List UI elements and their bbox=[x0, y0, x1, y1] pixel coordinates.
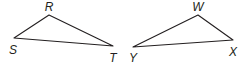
triangle-wxy: W X Y bbox=[129, 0, 238, 65]
vertex-label-x: X bbox=[228, 45, 238, 59]
triangle-rst-shape bbox=[14, 15, 113, 46]
vertex-label-y: Y bbox=[129, 51, 138, 65]
vertex-label-t: T bbox=[109, 51, 118, 65]
triangle-wxy-shape bbox=[133, 15, 233, 47]
vertex-label-w: W bbox=[192, 0, 205, 14]
triangle-rst: R S T bbox=[9, 0, 118, 65]
triangles-diagram: R S T W X Y bbox=[0, 0, 244, 66]
vertex-label-r: R bbox=[45, 0, 54, 14]
vertex-label-s: S bbox=[9, 43, 17, 57]
